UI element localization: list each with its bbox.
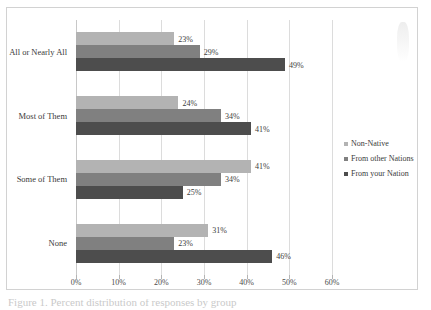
bar-row: 24% [76,96,332,109]
bar[interactable] [76,45,200,58]
bar-row: 23% [76,32,332,45]
x-axis-tick-label: 10% [111,278,126,287]
bar[interactable] [76,160,251,173]
legend-item[interactable]: From your Nation [344,170,418,178]
bar-row: 31% [76,224,332,237]
legend-swatch-icon [344,142,348,146]
category-label: None [49,238,67,248]
legend-label: Non-Native [351,140,389,148]
bar-row: 23% [76,237,332,250]
category-label: All or Nearly All [9,47,67,57]
bar-group: 31%23%46% [76,211,332,275]
bar-value-label: 31% [208,226,227,235]
bar-row: 25% [76,186,332,199]
bar-group: 23%29%49% [76,20,332,84]
bar[interactable] [76,109,221,122]
bar[interactable] [76,58,285,71]
chart-legend: Non-NativeFrom other NationsFrom your Na… [344,140,418,185]
bar-value-label: 25% [183,188,202,197]
bar[interactable] [76,173,221,186]
bar[interactable] [76,186,183,199]
bar[interactable] [76,224,208,237]
x-axis-tick-label: 20% [154,278,169,287]
category-axis: All or Nearly AllMost of ThemSome of The… [7,20,75,275]
x-axis-tick-label: 0% [71,278,82,287]
bar[interactable] [76,237,174,250]
bar-value-label: 23% [174,239,193,248]
bar-row: 41% [76,160,332,173]
legend-label: From other Nations [351,155,414,163]
category-label: Most of Them [19,111,67,121]
chart-frame: All or Nearly AllMost of ThemSome of The… [6,7,418,290]
x-axis-tick-label: 50% [282,278,297,287]
scan-artifact [397,22,409,62]
bar-row: 34% [76,173,332,186]
legend-swatch-icon [344,157,348,161]
bar-value-label: 41% [251,124,270,133]
bar-row: 49% [76,58,332,71]
legend-label: From your Nation [351,170,409,178]
bar-group: 41%34%25% [76,148,332,212]
legend-swatch-icon [344,172,348,176]
legend-item[interactable]: From other Nations [344,155,418,163]
bar[interactable] [76,96,178,109]
bar-value-label: 34% [221,175,240,184]
bar-group: 24%34%41% [76,84,332,148]
bar-value-label: 23% [174,34,193,43]
bar-row: 41% [76,122,332,135]
bar-value-label: 41% [251,162,270,171]
bar-value-label: 29% [200,47,219,56]
figure-caption: Figure 1. Percent distribution of respon… [8,299,328,308]
figure-caption-strip: Figure 1. Percent distribution of respon… [8,299,328,310]
legend-item[interactable]: Non-Native [344,140,418,148]
bar-row: 34% [76,109,332,122]
category-label: Some of Them [17,174,67,184]
bar-value-label: 49% [285,60,304,69]
bar[interactable] [76,122,251,135]
gridline-60pct [332,20,333,275]
x-axis-tick-label: 30% [197,278,212,287]
bar[interactable] [76,250,272,263]
x-axis-tick-label: 40% [239,278,254,287]
bar-value-label: 24% [178,98,197,107]
plot-area: 0%10%20%30%40%50%60%23%29%49%24%34%41%41… [76,20,332,275]
bar-value-label: 34% [221,111,240,120]
bar[interactable] [76,32,174,45]
bar-value-label: 46% [272,252,291,261]
bar-row: 46% [76,250,332,263]
x-axis-tick-label: 60% [325,278,340,287]
bar-row: 29% [76,45,332,58]
